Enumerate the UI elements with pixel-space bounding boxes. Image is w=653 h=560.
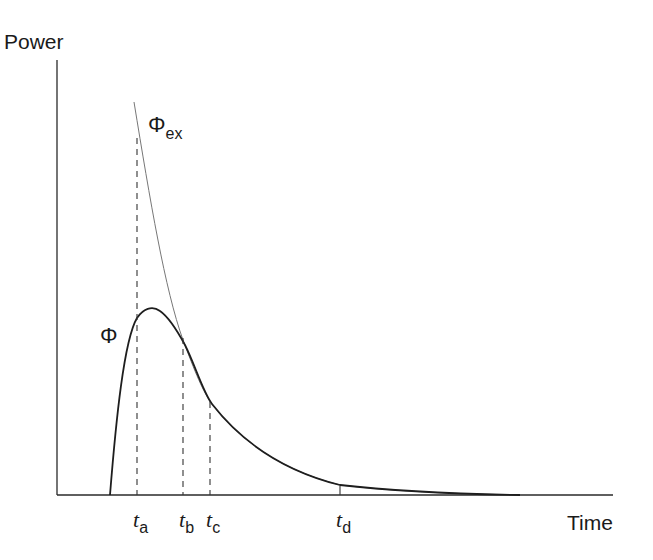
ta-label: ta xyxy=(133,507,148,536)
y-axis-label: Power xyxy=(4,30,64,53)
tb-label: tb xyxy=(179,507,194,536)
phi-ex-curve xyxy=(134,102,520,495)
phi-label: Φ xyxy=(100,323,118,348)
diagram-canvas: Power Time Φex Φ ta tb tc td xyxy=(0,0,653,560)
x-axis-label: Time xyxy=(567,511,613,534)
phi-ex-label: Φex xyxy=(148,112,182,142)
td-label: td xyxy=(336,507,351,536)
tc-label: tc xyxy=(206,507,220,536)
phi-curve xyxy=(110,308,520,495)
